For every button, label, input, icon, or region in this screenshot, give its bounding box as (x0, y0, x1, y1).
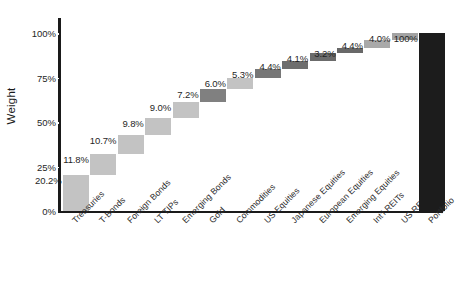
x-label-gold: Gold (207, 205, 227, 225)
x-label-lt-tips: LT TIPs (152, 197, 180, 225)
bar-value-foreign-bonds: 10.7% (90, 134, 116, 145)
bar-foreign-bonds (118, 135, 144, 154)
bar-value-treasuries: 20.2% (35, 175, 61, 186)
bar-value-european-equities: 4.1% (287, 53, 308, 64)
bar-value-int-l-reits: 4.4% (342, 39, 363, 50)
bar-value-japanese-equities: 4.4% (259, 60, 280, 71)
bar-portfolio (419, 33, 445, 211)
bar-value-portfolio: 100% (394, 33, 418, 44)
bar-commodities (227, 78, 253, 89)
bar-value-emerging-bonds: 9.0% (150, 101, 171, 112)
bar-value-us-reits: 4.0% (369, 32, 390, 43)
bar-t-bonds (90, 154, 116, 175)
bar-emerging-bonds (173, 102, 199, 118)
bar-value-t-bonds: 11.8% (63, 154, 89, 165)
bar-value-commodities: 6.0% (205, 78, 226, 89)
bar-value-emerging-equities: 3.2% (314, 47, 335, 58)
bar-value-gold: 7.2% (177, 88, 198, 99)
bar-value-us-equities: 5.3% (232, 68, 253, 79)
bar-lt-tips (145, 118, 171, 135)
bar-gold (200, 89, 226, 102)
bar-value-lt-tips: 9.8% (122, 117, 143, 128)
